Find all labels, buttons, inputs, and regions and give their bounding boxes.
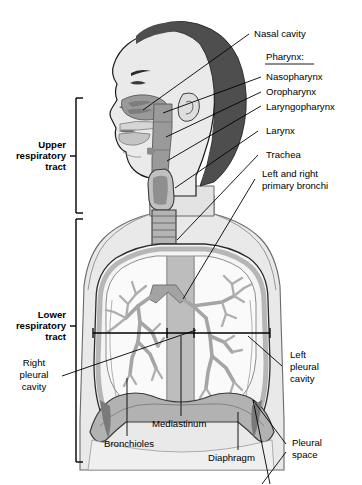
label-left-pleural-cavity-line-2: pleural (290, 361, 319, 372)
label-left-pleural-cavity-line-1: Left (290, 349, 306, 360)
label-trachea: Trachea (266, 149, 302, 160)
lower-respiratory-tract-line-3: tract (45, 331, 67, 342)
label-nasopharynx: Nasopharynx (266, 71, 323, 82)
right-lung (106, 256, 167, 402)
upper-respiratory-tract-line-2: respiratory (16, 150, 67, 161)
label-right-pleural-cavity-line-3: cavity (22, 381, 47, 392)
label-larynx: Larynx (266, 125, 295, 136)
label-primary-bronchi-line-1: Left and right (262, 168, 318, 179)
label-upper-respiratory-tract: Upper respiratory tract (16, 139, 67, 172)
label-right-pleural-cavity-line-2: pleural (20, 369, 49, 380)
mediastinum (167, 256, 194, 404)
diagram-canvas: Upper respiratory tract Lower respirator… (0, 0, 362, 485)
upper-respiratory-tract-bracket (70, 98, 83, 213)
label-right-pleural-cavity-line-1: Right (23, 357, 46, 368)
label-bronchioles: Bronchioles (104, 438, 154, 449)
label-nasal-cavity: Nasal cavity (254, 28, 306, 39)
lower-respiratory-tract-line-2: respiratory (16, 320, 67, 331)
upper-respiratory-tract-line-1: Upper (38, 139, 66, 150)
label-diaphragm: Diaphragm (208, 452, 255, 463)
label-left-pleural-cavity-line-3: cavity (290, 373, 315, 384)
larynx-lumen (153, 176, 168, 205)
label-pleural-space-line-2: space (292, 449, 318, 460)
label-pleural-space-line-1: Pleural (292, 437, 322, 448)
hard-palate (120, 121, 158, 130)
upper-respiratory-tract-line-3: tract (45, 161, 67, 172)
label-oropharynx: Oropharynx (266, 86, 316, 97)
lower-respiratory-tract-line-1: Lower (38, 309, 67, 320)
label-primary-bronchi-line-2: primary bronchi (262, 180, 328, 191)
label-lower-respiratory-tract: Lower respiratory tract (16, 309, 67, 342)
label-mediastinum: Mediastinum (152, 418, 206, 429)
label-pharynx-heading: Pharynx: (266, 51, 304, 62)
label-laryngopharynx: Laryngopharynx (266, 101, 335, 112)
respiratory-system-figure: Upper respiratory tract Lower respirator… (0, 0, 362, 485)
